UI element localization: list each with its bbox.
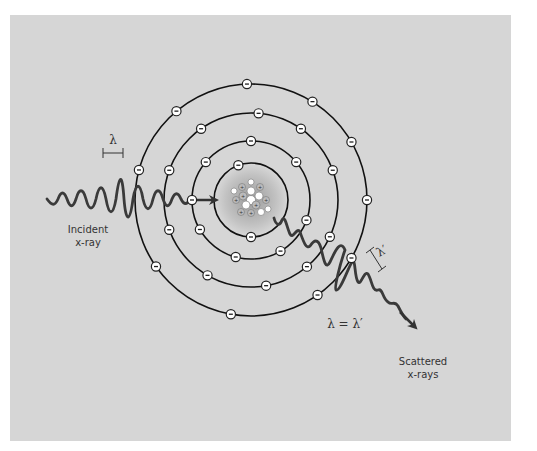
incident-label: Incident x-ray [58,223,118,249]
electron [165,166,174,175]
electron [172,107,181,116]
electron [347,137,356,146]
scattered-label-line1: Scattered [388,355,458,368]
electron [187,195,196,204]
electron [246,232,255,241]
svg-text:+: + [240,184,244,190]
scattered-wave [274,218,406,319]
electron [302,262,311,271]
electron [201,157,210,166]
electron [262,281,271,290]
electron [242,79,251,88]
electron [292,157,301,166]
electron [325,232,334,241]
electron [246,136,255,145]
scattered-label-line2: x-rays [388,368,458,381]
svg-text:+: + [264,197,268,203]
electron [234,161,243,170]
electron [165,225,174,234]
scattered-label: Scattered x-rays [388,355,458,381]
electron [196,124,205,133]
electron [362,195,371,204]
scattered-arrow [400,312,414,326]
incident-label-line2: x-ray [58,236,118,249]
equation-label: λ = λ′ [320,318,370,331]
lambda-label: λ [106,134,120,147]
electron [134,165,143,174]
electron [302,216,311,225]
electron [276,246,285,255]
incident-wave [47,179,190,217]
electron [296,124,305,133]
lambda-marker [103,148,123,158]
electron [231,252,240,261]
electron [308,97,317,106]
electron [328,166,337,175]
svg-text:+: + [234,197,238,203]
svg-text:+: + [241,193,245,199]
svg-text:+: + [239,209,243,215]
svg-text:+: + [249,210,253,216]
svg-text:+: + [258,184,262,190]
electron [226,310,235,319]
electron [347,253,356,262]
electron [313,290,322,299]
electron [203,271,212,280]
electron [195,225,204,234]
svg-text:+: + [254,202,258,208]
incident-label-line1: Incident [58,223,118,236]
electron [151,262,160,271]
electron [254,109,263,118]
